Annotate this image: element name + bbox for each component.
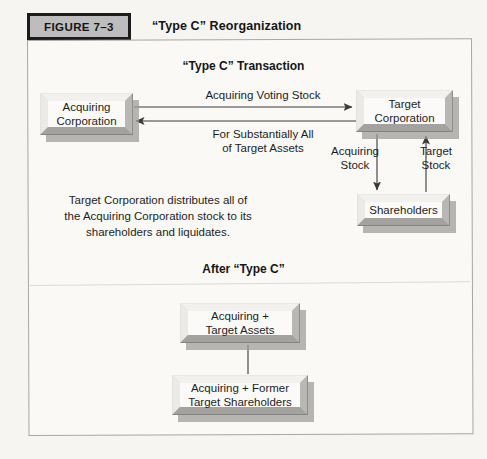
node-bevel: Acquiring + Target Assets [180, 303, 300, 343]
node-face: Target Corporation [364, 98, 445, 124]
bevel-face-top [358, 195, 449, 202]
node-label-line2: Corporation [374, 111, 434, 125]
node-bevel: Shareholders [357, 194, 450, 226]
node-label-line2: Corporation [56, 114, 116, 128]
node-label-line1: Acquiring [56, 100, 116, 114]
node-bevel: Acquiring + Former Target Shareholders [172, 375, 308, 415]
bevel-face-bottom [357, 124, 452, 131]
note-line2: the Acquiring Corporation stock to its [36, 208, 280, 224]
node-label-line1: Acquiring + Former [188, 381, 292, 395]
node-face: Acquiring Corporation [48, 101, 125, 127]
connector-label-voting-stock: Acquiring Voting Stock [183, 88, 343, 102]
node-label: Target Corporation [374, 97, 434, 125]
note-line3: shareholders and liquidates. [36, 224, 280, 240]
connector-label-target-stock-line1: Target [403, 144, 469, 158]
bevel-face-bottom [41, 127, 132, 134]
node-label-line1: Target [374, 97, 434, 111]
bevel-face-left [357, 91, 364, 131]
connector-label-acquiring-stock-line1: Acquiring [315, 144, 395, 158]
connector-label-target-stock-line2: Stock [403, 158, 469, 172]
node-face: Shareholders [365, 202, 442, 218]
connector-label-acquiring-stock: Acquiring Stock [315, 144, 395, 172]
node-bevel: Acquiring Corporation [40, 93, 133, 135]
node-label-line2: Target Shareholders [188, 395, 292, 409]
bevel-face-bottom [358, 218, 449, 225]
node-target-corporation: Target Corporation [356, 90, 453, 132]
note-target-distributes: Target Corporation distributes all of th… [36, 192, 280, 240]
node-shareholders: Shareholders [357, 194, 450, 226]
node-acquiring-target-assets: Acquiring + Target Assets [180, 303, 300, 343]
node-label: Shareholders [369, 203, 437, 217]
note-line1: Target Corporation distributes all of [36, 192, 280, 208]
node-face: Acquiring + Target Assets [188, 311, 292, 335]
node-label: Acquiring Corporation [56, 100, 116, 128]
connector-label-substantially-all-line1: For Substantially All [178, 127, 348, 141]
bevel-face-right [445, 91, 452, 131]
connector-label-target-stock: Target Stock [403, 144, 469, 172]
connector-label-acquiring-stock-line2: Stock [315, 158, 395, 172]
node-label: Acquiring + Former Target Shareholders [188, 381, 292, 409]
node-acquiring-corporation: Acquiring Corporation [40, 93, 133, 135]
figure-canvas: FIGURE 7–3 “Type C” Reorganization “Type… [0, 0, 487, 459]
node-label-line1: Acquiring + [205, 309, 274, 323]
node-label: Acquiring + Target Assets [205, 309, 274, 337]
node-label-line2: Target Assets [205, 323, 274, 337]
bevel-face-right [125, 94, 132, 134]
node-face: Acquiring + Former Target Shareholders [180, 383, 300, 407]
node-acquiring-former-target-shareholders: Acquiring + Former Target Shareholders [172, 375, 308, 415]
bevel-face-left [41, 94, 48, 134]
node-bevel: Target Corporation [356, 90, 453, 132]
